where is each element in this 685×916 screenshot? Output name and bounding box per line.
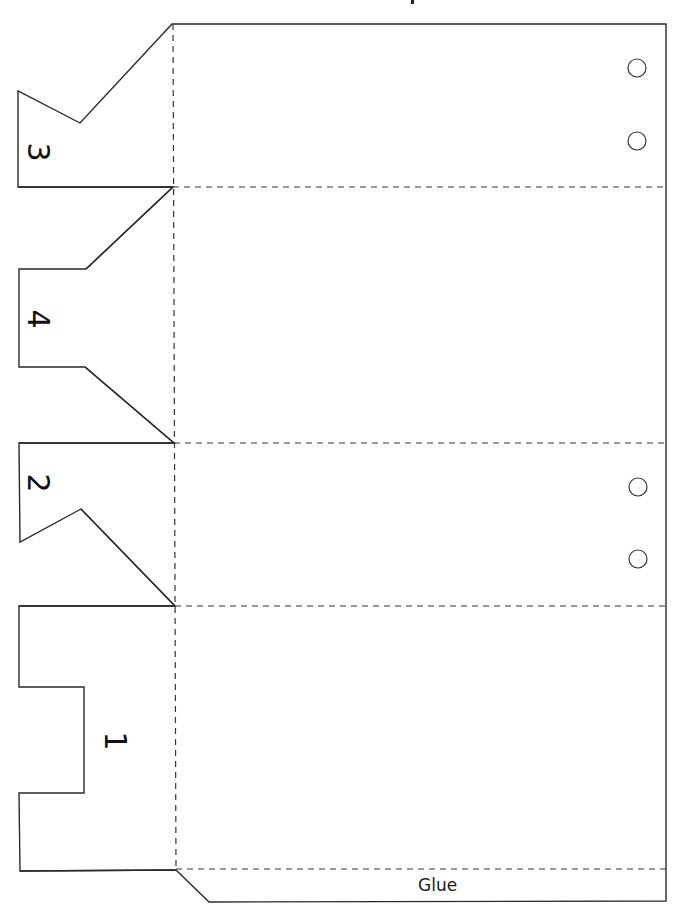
glue-strip-label: Glue <box>418 877 457 894</box>
die-line-drawing <box>0 0 685 916</box>
tab-1-bottom-edge <box>20 870 176 871</box>
punch-holes <box>628 59 647 568</box>
tab-label-1: 1 <box>100 731 130 750</box>
title-text-fragment <box>411 0 414 4</box>
tab-4-bottom-diagonal <box>85 367 174 443</box>
tab-2-bottom-diagonal <box>81 509 175 606</box>
punch-hole-circle-icon <box>628 132 646 150</box>
tab-4-top-diagonal <box>86 187 173 269</box>
outer-cut-outline <box>18 24 666 902</box>
fold-lines <box>173 24 666 870</box>
punch-hole-circle-icon <box>629 478 647 496</box>
tab-cut-edges <box>18 187 176 871</box>
vertical-fold-line <box>173 24 176 870</box>
tab-label-2: 2 <box>23 473 53 492</box>
tab-label-4: 4 <box>23 309 53 328</box>
punch-hole-circle-icon <box>628 59 646 77</box>
box-template-diagram: 3 4 2 1 Glue <box>0 0 685 916</box>
tab-label-3: 3 <box>23 142 53 161</box>
punch-hole-circle-icon <box>629 550 647 568</box>
